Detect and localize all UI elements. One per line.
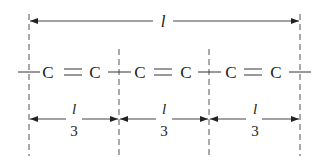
segment-2-denominator: 3 [160, 123, 168, 139]
segment-labels: l 3 l 3 l 3 [70, 101, 259, 139]
carbon-chain [18, 69, 311, 75]
polymer-repeat-unit-diagram: l C C C C C C [0, 0, 323, 164]
segment-2-numerator: l [162, 101, 166, 117]
double-bond-3 [244, 69, 262, 75]
carbon-atoms: C C C C C C [42, 63, 281, 82]
carbon-atom-6: C [270, 63, 281, 82]
segment-1-numerator: l [72, 101, 76, 117]
segment-3-numerator: l [253, 101, 257, 117]
carbon-atom-4: C [180, 63, 191, 82]
carbon-atom-2: C [89, 63, 100, 82]
segment-3-denominator: 3 [251, 123, 259, 139]
carbon-atom-1: C [42, 63, 53, 82]
double-bond-2 [154, 69, 172, 75]
segment-1-denominator: 3 [70, 123, 78, 139]
total-length-label: l [161, 12, 166, 31]
carbon-atom-5: C [225, 63, 236, 82]
carbon-atom-3: C [134, 63, 145, 82]
total-length-dimension: l [30, 12, 299, 31]
double-bond-1 [64, 69, 82, 75]
